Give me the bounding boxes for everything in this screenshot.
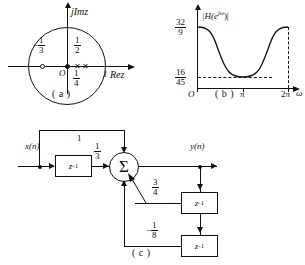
frac-den: 3 [38, 45, 45, 55]
zero-marker-origin [65, 64, 70, 69]
panel-b-magnitude-response: 329 1645 |H(ejω)| O π 2π ω ( b ) [155, 0, 305, 100]
frac-den: 8 [151, 230, 158, 240]
delay-block-input: z-1 [55, 155, 92, 177]
frac-num: 1 [94, 142, 101, 151]
frac-num: 1 [73, 69, 80, 78]
real-axis-label: Rez [110, 70, 124, 80]
output-signal-label: y(n) [190, 142, 205, 151]
delay-block-exponent: -1 [198, 242, 204, 250]
xtick-label-pi: π [240, 90, 245, 99]
frequency-axis-label: ω [296, 89, 302, 98]
wire-delay2-up [124, 184, 125, 246]
frac-num: 16 [175, 68, 186, 77]
arrow-into-delay1-icon [197, 184, 203, 190]
frac-den: 3 [94, 151, 101, 161]
delay-block-feedback-2: z-1 [181, 235, 218, 257]
two-pi-dashed-line [288, 27, 289, 88]
label-neg-one-third: −13 [33, 36, 45, 55]
min-level-dashed-line [198, 77, 272, 78]
delay-block-feedback-1: z-1 [181, 192, 218, 214]
ytick-label-min: 1645 [175, 68, 186, 87]
magnitude-axis-label-head: |H(e [202, 11, 218, 21]
frac-den: 4 [73, 78, 80, 88]
magnitude-axis-label: |H(ejω)| [202, 10, 229, 21]
ytick-label-max: 329 [175, 18, 186, 37]
frac-den: 4 [152, 187, 159, 197]
coefficient-feedforward-one: 1 [77, 134, 82, 143]
magnitude-axis-label-tail: )| [224, 11, 229, 21]
delay-block-exponent: -1 [198, 199, 204, 207]
coefficient-three-quarters: 34 [152, 178, 159, 197]
delay-block-exponent: -1 [72, 162, 78, 170]
wire-diagonal-into-sum-3-4 [126, 173, 148, 207]
unit-point-label: 1 [103, 70, 108, 79]
origin-label-b: O [188, 90, 195, 99]
panel-c-block-diagram: x(n) z-1 13 1 Σ y(n) z-1 34 z-1 [0, 118, 305, 265]
frac-den: 2 [74, 45, 81, 55]
label-one-quarter: 14 [73, 69, 80, 88]
frac-num: 1 [151, 221, 158, 230]
wire-feedforward-up [39, 130, 40, 166]
input-signal-label: x(n) [25, 142, 40, 151]
wire-feedforward-across [39, 130, 124, 131]
pole-marker-one-half: ✕ [82, 63, 89, 70]
origin-label: O [59, 69, 66, 78]
imaginary-axis-label: jImz [71, 7, 88, 17]
frac-num: 3 [152, 178, 159, 187]
imaginary-axis-arrow-icon [65, 2, 71, 8]
arrow-output-icon [211, 163, 217, 169]
real-axis-arrow-icon [128, 64, 135, 70]
wire-sum-to-output [139, 166, 217, 167]
panel-a-zplane: jImz Rez O 1 ✕ ✕ −13 12 14 ( a ) [0, 0, 155, 100]
frac-den: 45 [175, 77, 186, 87]
coefficient-one-third: 13 [94, 142, 101, 161]
zero-marker-neg-one-third [40, 64, 45, 69]
arrow-into-delay2-icon [197, 227, 203, 233]
frac-num: 32 [175, 18, 186, 27]
coefficient-neg-one-eighth: −18 [146, 221, 158, 240]
arrow-into-sum-bottom-icon [121, 180, 127, 186]
xtick-label-two-pi: 2π [281, 90, 290, 99]
frac-num: 1 [74, 36, 81, 45]
caption-a: ( a ) [52, 88, 71, 99]
caption-b: ( b ) [215, 88, 234, 99]
label-one-half: 12 [74, 36, 81, 55]
caption-c: ( c ) [132, 247, 151, 258]
frac-num: 1 [38, 36, 45, 45]
frac-den: 9 [175, 27, 186, 37]
